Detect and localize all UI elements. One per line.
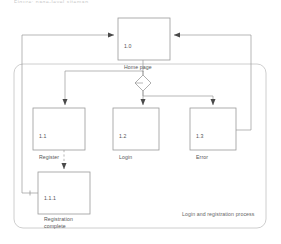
node-box-home[interactable] — [118, 18, 170, 60]
node-box-login[interactable] — [113, 108, 159, 150]
node-box-register[interactable] — [33, 108, 85, 150]
diagram-caption: Login and registration process — [182, 211, 255, 217]
edge-decision-to-error — [143, 96, 213, 105]
diagram-canvas: Figure: page-level sitemap — [0, 0, 281, 244]
edge-branch-left — [65, 71, 143, 105]
node-box-registration-complete[interactable] — [38, 172, 90, 214]
node-box-error[interactable] — [190, 108, 236, 150]
diagram-graphics — [0, 0, 281, 244]
